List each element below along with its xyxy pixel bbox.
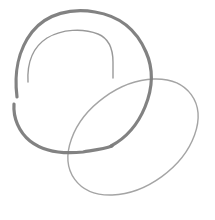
sketch-canvas: [0, 0, 215, 220]
sketch-drawing: [0, 0, 215, 220]
